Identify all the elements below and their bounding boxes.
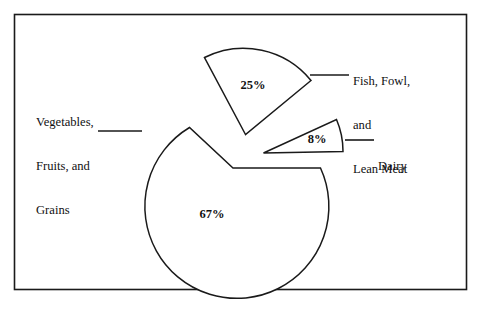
callout-line-fish-1: Fish, Fowl, bbox=[353, 74, 410, 89]
callout-line-veg-3: Grains bbox=[36, 203, 94, 218]
callout-label-vegetables-fruits-grains: Vegetables, Fruits, and Grains bbox=[36, 86, 94, 247]
pie-slice-dairy[interactable] bbox=[264, 120, 344, 154]
pie-chart-figure: 25% 8% 67% Fish, Fowl, and Lean Meat Veg… bbox=[0, 0, 485, 310]
callout-label-dairy: Dairy bbox=[378, 130, 407, 203]
pie-value-label-fish: 25% bbox=[241, 78, 266, 92]
callout-line-veg-1: Vegetables, bbox=[36, 115, 94, 130]
callout-line-dairy-1: Dairy bbox=[378, 159, 407, 174]
pie-slice-vegetables-fruits-grains[interactable] bbox=[145, 128, 329, 299]
pie-value-label-dairy: 8% bbox=[308, 132, 327, 146]
pie-value-label-vegetables: 67% bbox=[200, 207, 225, 221]
callout-line-veg-2: Fruits, and bbox=[36, 159, 94, 174]
